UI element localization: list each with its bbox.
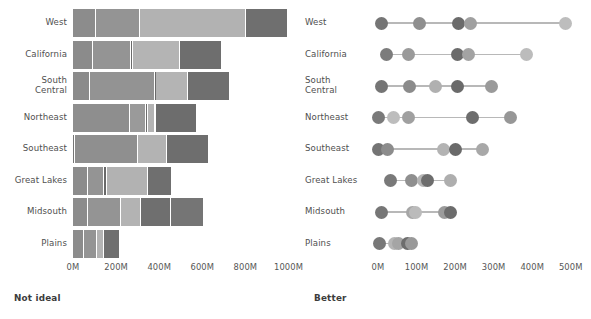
data-point xyxy=(559,17,572,30)
bar-row-label-great-lakes: Great Lakes xyxy=(7,175,67,185)
data-point xyxy=(413,17,426,30)
bar-segment xyxy=(96,9,139,37)
data-point xyxy=(402,48,415,61)
bar-row: Midsouth xyxy=(0,197,300,231)
left-panel-caption: Not ideal xyxy=(14,293,61,303)
data-point xyxy=(429,80,442,93)
dot-row-label-northeast: Northeast xyxy=(305,112,367,122)
bar-segment xyxy=(156,104,197,132)
bar-segment xyxy=(130,104,145,132)
bar-segment xyxy=(246,9,287,37)
bar-segment xyxy=(73,198,87,226)
bar-segment xyxy=(73,230,83,258)
bar-segment xyxy=(171,198,203,226)
data-point xyxy=(451,80,464,93)
axis-tick-label: 400M xyxy=(520,262,544,272)
axis-tick-label: 0M xyxy=(67,262,80,272)
bar-row: Great Lakes xyxy=(0,166,300,200)
connector-line xyxy=(379,148,483,149)
bar-segment xyxy=(73,135,74,163)
bar-segment xyxy=(104,167,105,195)
dot-series xyxy=(378,198,591,226)
dot-series xyxy=(378,104,591,132)
bar-segment xyxy=(141,198,170,226)
data-point xyxy=(504,111,517,124)
data-point xyxy=(464,17,477,30)
data-point xyxy=(402,111,415,124)
bar-row: West xyxy=(0,8,300,42)
bar-segment xyxy=(140,9,246,37)
bar-segment xyxy=(133,41,179,69)
axis-tick-label: 300M xyxy=(482,262,506,272)
bar-row-label-plains: Plains xyxy=(7,238,67,248)
data-point xyxy=(449,143,462,156)
right-chart-panel: WestCaliforniaSouthCentralNortheastSouth… xyxy=(300,0,591,319)
data-point xyxy=(409,206,422,219)
bar-row: Southeast xyxy=(0,134,300,168)
axis-tick-label: 0M xyxy=(372,262,385,272)
dot-row-label-california: California xyxy=(305,49,367,59)
dot-series xyxy=(378,230,591,258)
dot-row: Northeast xyxy=(300,103,591,137)
bar-segment xyxy=(75,135,136,163)
bar-segment xyxy=(121,198,139,226)
data-point xyxy=(384,174,397,187)
bar-segment xyxy=(156,72,187,100)
data-point xyxy=(476,143,489,156)
dot-row: West xyxy=(300,8,591,42)
bar-row: Northeast xyxy=(0,103,300,137)
axis-tick-label: 200M xyxy=(104,262,128,272)
data-point xyxy=(444,206,457,219)
bar-row: SouthCentral xyxy=(0,71,300,105)
data-point xyxy=(405,237,418,250)
data-point xyxy=(373,237,386,250)
bar-segment xyxy=(73,72,89,100)
dot-series xyxy=(378,72,591,100)
data-point xyxy=(520,48,533,61)
axis-tick-label: 100M xyxy=(405,262,429,272)
data-point xyxy=(466,111,479,124)
dot-series xyxy=(378,41,591,69)
data-point xyxy=(375,17,388,30)
bar-segment xyxy=(88,198,120,226)
bar-segment xyxy=(138,135,166,163)
dot-row-label-south-central: SouthCentral xyxy=(305,75,367,96)
dot-row: Southeast xyxy=(300,134,591,168)
bar-segment xyxy=(167,135,208,163)
dot-series xyxy=(378,135,591,163)
data-point xyxy=(387,111,400,124)
bar-segment xyxy=(73,104,129,132)
dot-row: Plains xyxy=(300,229,591,263)
dot-row: California xyxy=(300,40,591,74)
bar-segment xyxy=(104,230,119,258)
data-point xyxy=(372,111,385,124)
dot-series xyxy=(378,167,591,195)
bar-segment xyxy=(148,104,154,132)
data-point xyxy=(375,80,388,93)
bar-row-label-northeast: Northeast xyxy=(7,112,67,122)
bar-segment xyxy=(148,167,172,195)
bar-segment xyxy=(73,9,95,37)
data-point xyxy=(485,80,498,93)
right-panel-caption: Better xyxy=(314,293,347,303)
bar-row-label-south-central: SouthCentral xyxy=(7,75,67,96)
data-point xyxy=(380,48,393,61)
data-point xyxy=(444,174,457,187)
left-chart-panel: WestCaliforniaSouthCentralNortheastSouth… xyxy=(0,0,300,319)
data-point xyxy=(462,48,475,61)
data-point xyxy=(421,174,434,187)
dot-row-label-great-lakes: Great Lakes xyxy=(305,175,367,185)
bar-segment xyxy=(88,167,103,195)
bar-segment xyxy=(93,41,130,69)
bar-segment xyxy=(73,41,92,69)
dot-row-label-plains: Plains xyxy=(305,238,367,248)
left-x-axis: 0M200M400M600M800M1000M xyxy=(0,262,300,276)
bar-segment xyxy=(84,230,96,258)
bar-row-label-southeast: Southeast xyxy=(7,143,67,153)
dot-row-label-southeast: Southeast xyxy=(305,143,367,153)
data-point xyxy=(375,206,388,219)
dot-row-label-west: West xyxy=(305,17,367,27)
bar-segment xyxy=(188,72,229,100)
dot-row: Midsouth xyxy=(300,197,591,231)
bar-row-label-california: California xyxy=(7,49,67,59)
